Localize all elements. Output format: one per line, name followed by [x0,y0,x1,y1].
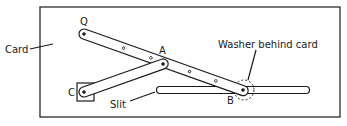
bar-ca [78,58,170,99]
card-label: Card [5,44,28,55]
pivot-a [161,62,165,66]
pivot-b [241,88,245,92]
label-c: C [68,87,75,98]
pivot-q [82,32,86,36]
label-a: A [159,45,166,56]
washer-leader-line [248,50,256,80]
card-leader-line [30,44,53,49]
washer-label: Washer behind card [218,39,318,50]
slit-label: Slit [110,99,126,110]
pivot-c [82,90,86,94]
linkage-diagram: Card Slit Washer behind card Q A B C [0,0,347,126]
label-q: Q [80,16,88,27]
slit-leader-line [130,92,155,101]
label-b: B [227,95,234,106]
